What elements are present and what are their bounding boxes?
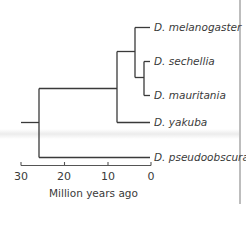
taxon-label-pseudoobscura: D. pseudoobscura xyxy=(154,151,246,163)
axis-title: Million years ago xyxy=(49,187,138,199)
tick-label-30: 30 xyxy=(14,171,28,183)
tick-label-10: 10 xyxy=(101,171,115,183)
taxon-label-melanogaster: D. melanogaster xyxy=(154,21,241,33)
tick-label-20: 20 xyxy=(57,171,71,183)
taxon-label-yakuba: D. yakuba xyxy=(154,116,207,128)
taxon-label-mauritania: D. mauritania xyxy=(154,89,226,101)
taxon-label-sechellia: D. sechellia xyxy=(154,55,215,67)
tick-label-0: 0 xyxy=(148,171,155,183)
